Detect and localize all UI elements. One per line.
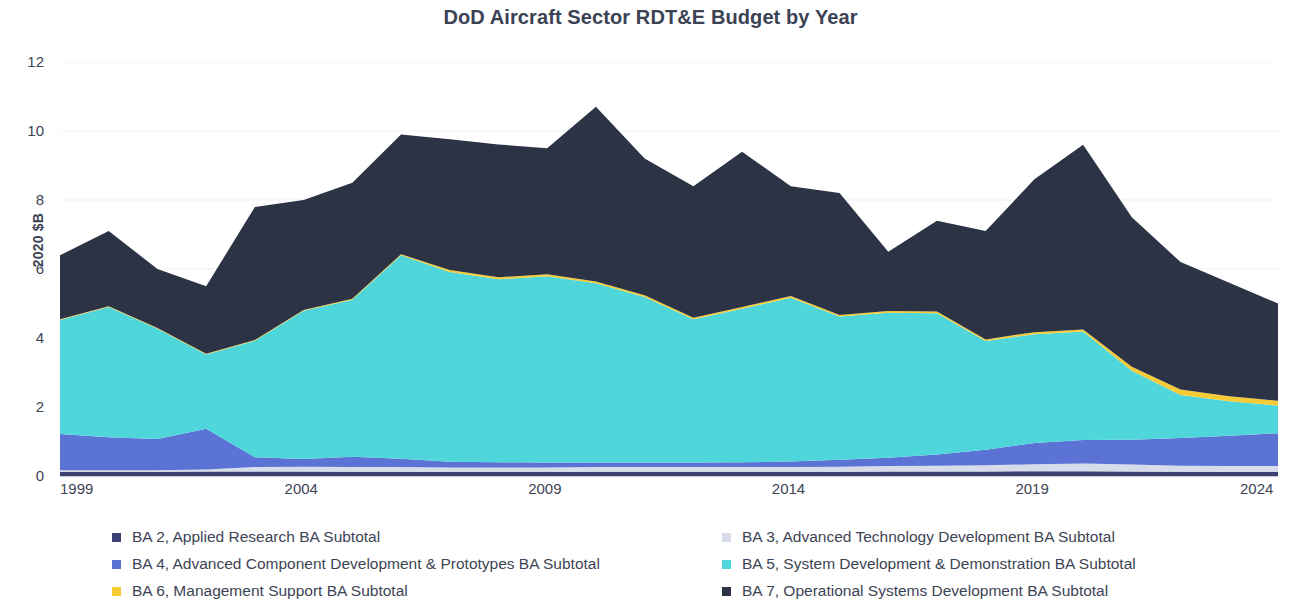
legend-item[interactable]: BA 6, Management Support BA Subtotal — [112, 578, 712, 604]
x-axis-tick-2004: 2004 — [285, 481, 318, 496]
stacked-area-plot — [60, 62, 1278, 476]
legend-item[interactable]: BA 2, Applied Research BA Subtotal — [112, 524, 712, 550]
y-axis-tick-6: 6 — [0, 261, 44, 276]
x-axis-tick-2024: 2024 — [1240, 481, 1273, 496]
legend-swatch-icon — [112, 560, 121, 569]
legend-item[interactable]: BA 5, System Development & Demonstration… — [722, 551, 1282, 577]
x-axis-tick-2019: 2019 — [1015, 481, 1048, 496]
chart-container: DoD Aircraft Sector RDT&E Budget by Year… — [0, 0, 1301, 604]
legend-swatch-icon — [722, 587, 731, 596]
page-title: DoD Aircraft Sector RDT&E Budget by Year — [0, 6, 1301, 29]
x-axis-tick-2014: 2014 — [772, 481, 805, 496]
legend-item-label: BA 2, Applied Research BA Subtotal — [132, 529, 380, 545]
y-axis-tick-12: 12 — [0, 54, 44, 69]
legend-item-label: BA 4, Advanced Component Development & P… — [132, 556, 600, 572]
legend-column-right: BA 3, Advanced Technology Development BA… — [722, 524, 1282, 604]
legend-item-label: BA 7, Operational Systems Development BA… — [742, 583, 1108, 599]
legend-swatch-icon — [112, 587, 121, 596]
x-axis-line — [60, 476, 1278, 477]
y-axis-tick-4: 4 — [0, 330, 44, 345]
chart-legend: BA 2, Applied Research BA SubtotalBA 4, … — [112, 524, 1282, 604]
y-axis-tick-8: 8 — [0, 192, 44, 207]
y-axis-tick-2: 2 — [0, 399, 44, 414]
legend-item-label: BA 3, Advanced Technology Development BA… — [742, 529, 1115, 545]
legend-item[interactable]: BA 3, Advanced Technology Development BA… — [722, 524, 1282, 550]
x-axis-tick-2009: 2009 — [528, 481, 561, 496]
plot-area — [60, 62, 1278, 476]
legend-swatch-icon — [112, 533, 121, 542]
legend-swatch-icon — [722, 560, 731, 569]
legend-column-left: BA 2, Applied Research BA SubtotalBA 4, … — [112, 524, 712, 604]
legend-item-label: BA 5, System Development & Demonstration… — [742, 556, 1136, 572]
x-axis-tick-1999: 1999 — [60, 481, 93, 496]
legend-item[interactable]: BA 4, Advanced Component Development & P… — [112, 551, 712, 577]
legend-swatch-icon — [722, 533, 731, 542]
legend-item[interactable]: BA 7, Operational Systems Development BA… — [722, 578, 1282, 604]
y-axis-tick-10: 10 — [0, 123, 44, 138]
y-axis-tick-0: 0 — [0, 468, 44, 483]
legend-item-label: BA 6, Management Support BA Subtotal — [132, 583, 408, 599]
